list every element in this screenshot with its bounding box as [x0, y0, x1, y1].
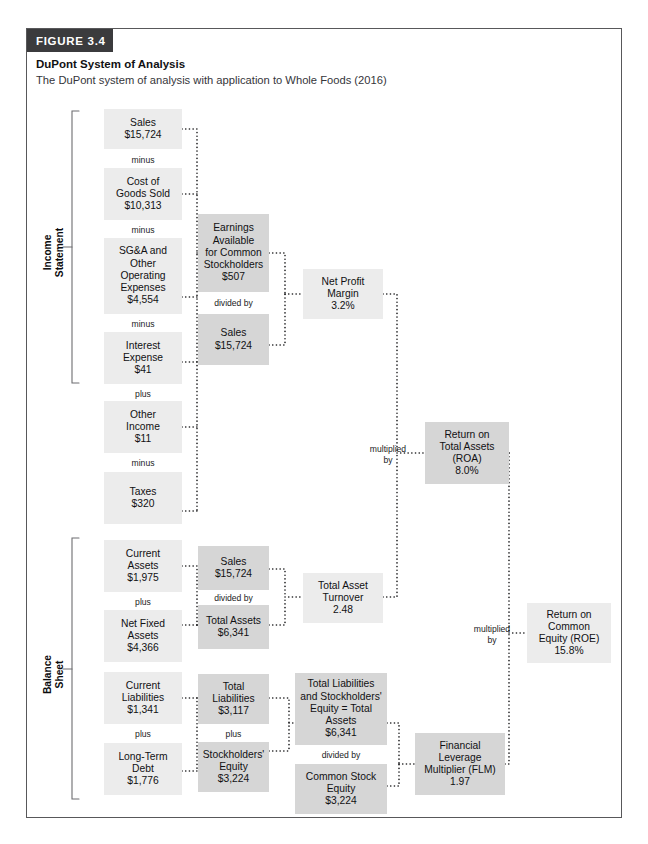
node-current-assets: Current Assets $1,975 — [104, 540, 182, 592]
node-long-term-debt: Long-Term Debt $1,776 — [104, 743, 182, 795]
node-net-fixed-assets: Net Fixed Assets $4,366 — [104, 610, 182, 662]
node-interest-expense: Interest Expense $41 — [104, 332, 182, 384]
node-sales-turnover-numerator: Sales $15,724 — [198, 546, 269, 590]
node-total-liabilities: Total Liabilities $3,117 — [198, 674, 269, 724]
operator-plus-2: plus — [104, 597, 182, 607]
section-label-income-statement: IncomeStatement — [42, 218, 65, 288]
section-label-balance-sheet: BalanceSheet — [42, 640, 65, 710]
node-taxes: Taxes $320 — [104, 472, 182, 524]
node-return-on-common-equity: Return on Common Equity (ROE) 15.8% — [527, 603, 611, 663]
operator-minus-2: minus — [104, 225, 182, 235]
operator-plus-3: plus — [104, 729, 182, 739]
node-stockholders-equity: Stockholders' Equity $3,224 — [198, 742, 269, 792]
node-total-liabilities-and-stockholders-equity: Total Liabilities and Stockholders' Equi… — [295, 673, 387, 745]
node-common-stock-equity: Common Stock Equity $3,224 — [295, 764, 387, 814]
operator-multiplied-by-roa: multipliedby — [357, 444, 419, 465]
dupont-diagram: IncomeStatement BalanceSheet Sales $15,7… — [27, 29, 623, 819]
node-financial-leverage-multiplier: Financial Leverage Multiplier (FLM) 1.97 — [415, 733, 505, 795]
operator-multiplied-by-roe: multipliedby — [461, 624, 523, 645]
operator-divided-by-2: divided by — [198, 593, 269, 603]
node-cost-of-goods-sold: Cost of Goods Sold $10,313 — [104, 168, 182, 220]
node-current-liabilities: Current Liabilities $1,341 — [104, 672, 182, 724]
operator-plus-1: plus — [104, 389, 182, 399]
operator-divided-by-3: divided by — [295, 750, 387, 760]
node-sga-other-operating-expenses: SG&A and Other Operating Expenses $4,554 — [104, 238, 182, 314]
operator-plus-4: plus — [198, 729, 269, 739]
node-other-income: Other Income $11 — [104, 401, 182, 453]
node-sales-income: Sales $15,724 — [104, 109, 182, 149]
node-sales-denominator: Sales $15,724 — [198, 314, 269, 365]
operator-minus-3: minus — [104, 319, 182, 329]
node-return-on-total-assets: Return on Total Assets (ROA) 8.0% — [425, 422, 509, 484]
node-earnings-available-for-common-stockholders: Earnings Available for Common Stockholde… — [198, 214, 269, 292]
operator-divided-by-1: divided by — [198, 298, 269, 308]
operator-minus-1: minus — [104, 155, 182, 165]
node-net-profit-margin: Net Profit Margin 3.2% — [303, 269, 383, 319]
operator-minus-4: minus — [104, 458, 182, 468]
node-total-assets: Total Assets $6,341 — [198, 605, 269, 649]
figure-frame: FIGURE 3.4 DuPont System of Analysis The… — [26, 28, 622, 818]
node-total-asset-turnover: Total Asset Turnover 2.48 — [303, 573, 383, 623]
